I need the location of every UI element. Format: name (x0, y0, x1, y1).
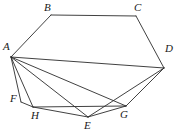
geometry-figure: ABCDEFGH (0, 0, 176, 133)
segment-AB (11, 15, 51, 57)
segment-HG (33, 106, 126, 107)
figure-canvas (0, 0, 176, 133)
segment-BC (51, 15, 136, 16)
segment-EH (33, 107, 88, 117)
segment-CD (136, 16, 164, 68)
edge-layer (11, 15, 164, 117)
vertex-label-D: D (165, 43, 173, 54)
vertex-label-F: F (10, 93, 17, 104)
segment-DG (126, 68, 164, 106)
vertex-label-B: B (44, 2, 51, 13)
vertex-label-A: A (3, 41, 10, 52)
vertex-label-E: E (84, 120, 91, 131)
vertex-label-H: H (31, 110, 39, 121)
vertex-label-G: G (120, 109, 128, 120)
segment-AE (11, 57, 88, 117)
vertex-label-C: C (134, 2, 141, 13)
